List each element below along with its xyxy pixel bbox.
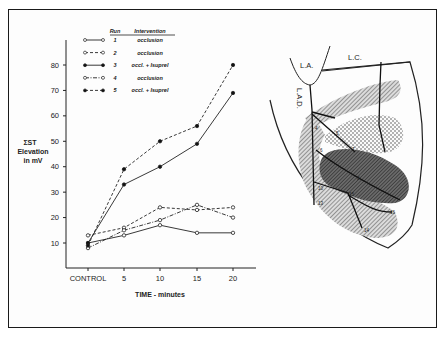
legend-run-number: 5: [113, 87, 117, 93]
legend-marker: [84, 51, 87, 54]
data-point: [122, 229, 125, 232]
y-axis-title-line2: Elevation: [17, 148, 48, 155]
data-point: [231, 231, 234, 234]
legend-marker: [102, 39, 105, 42]
data-point: [122, 234, 125, 237]
data-point: [158, 224, 161, 227]
legend-marker: [84, 64, 87, 67]
data-point: [195, 208, 198, 211]
x-tick-label: 10: [156, 274, 164, 283]
legend-intervention: occlusion: [137, 75, 163, 81]
x-tick-label: 15: [193, 274, 201, 283]
y-tick-label: 40: [51, 162, 59, 171]
legend-intervention: occlusion: [137, 37, 163, 43]
legend-row-run-5: 5occl. + Isuprel: [84, 87, 169, 93]
y-axis-title-line3: in mV: [23, 157, 42, 164]
y-tick-label: 20: [51, 213, 59, 222]
data-point: [86, 244, 89, 247]
data-point: [158, 140, 161, 143]
data-point: [158, 165, 161, 168]
label-lc: L.C.: [348, 53, 362, 62]
legend-run-number: 2: [112, 50, 116, 56]
y-tick-label: 10: [51, 239, 59, 248]
legend-marker: [102, 64, 105, 67]
line-chart: 1020304050607080 CONTROL5101520 ΣST Elev…: [17, 28, 256, 298]
data-point: [195, 142, 198, 145]
data-point: [158, 206, 161, 209]
data-point: [231, 206, 234, 209]
legend-marker: [84, 89, 87, 92]
x-tick-label: 5: [122, 274, 126, 283]
heart-diagram: L.A. L.C. L.A.D. 456781013151614: [270, 46, 423, 248]
data-point: [195, 203, 198, 206]
legend-header-intervention: Intervention: [134, 28, 166, 34]
data-point: [231, 63, 234, 66]
x-tick-label: CONTROL: [70, 274, 107, 283]
legend-rows: 1occlusion2occlusion3occl. + Isuprel4occ…: [84, 37, 169, 93]
left-circumflex-edge: [322, 62, 410, 71]
legend-marker: [84, 39, 87, 42]
legend-marker: [84, 76, 87, 79]
figure-canvas: 1020304050607080 CONTROL5101520 ΣST Elev…: [0, 0, 445, 339]
data-point: [122, 168, 125, 171]
electrode-label: 10: [318, 186, 324, 191]
label-lad: L.A.D.: [295, 88, 304, 109]
data-point: [158, 218, 161, 221]
data-point: [231, 91, 234, 94]
data-point: [86, 234, 89, 237]
y-tick-label: 60: [51, 111, 59, 120]
y-tick-label: 30: [51, 188, 59, 197]
legend-row-run-1: 1occlusion: [84, 37, 164, 43]
x-axis-title: TIME - minutes: [135, 291, 185, 298]
y-ticks: 1020304050607080: [51, 61, 66, 248]
legend-intervention: occlusion: [137, 50, 163, 56]
legend-run-number: 3: [113, 62, 116, 68]
legend-row-run-3: 3occl. + Isuprel: [84, 62, 169, 68]
data-point: [195, 124, 198, 127]
legend-header-run: Run: [110, 28, 121, 34]
x-tick-label: 20: [229, 274, 237, 283]
y-tick-label: 50: [51, 137, 59, 146]
legend: Run Intervention 1occlusion2occlusion3oc…: [84, 28, 176, 93]
electrode-label: 6: [320, 148, 323, 153]
electrode-label: 13: [318, 201, 324, 206]
legend-marker: [102, 89, 105, 92]
legend-row-run-4: 4occlusion: [84, 75, 164, 81]
y-axis-title-line1: ΣST: [23, 139, 37, 146]
legend-marker: [102, 51, 105, 54]
legend-intervention: occl. + Isuprel: [132, 62, 169, 68]
label-la: L.A.: [300, 61, 313, 70]
series-run-1: [86, 224, 234, 245]
legend-run-number: 1: [113, 37, 116, 43]
y-tick-label: 80: [51, 61, 59, 70]
legend-intervention: occl. + Isuprel: [132, 87, 169, 93]
legend-row-run-2: 2occlusion: [84, 50, 164, 56]
data-point: [195, 231, 198, 234]
y-tick-label: 70: [51, 86, 59, 95]
data-point: [231, 216, 234, 219]
electrode-label: 14: [364, 228, 370, 233]
legend-run-number: 4: [112, 75, 116, 81]
legend-marker: [102, 76, 105, 79]
electrode-label: 15: [349, 192, 355, 197]
x-ticks: CONTROL5101520: [70, 268, 238, 283]
series-line: [88, 225, 233, 243]
electrode-label: 16: [390, 210, 396, 215]
data-point: [122, 183, 125, 186]
